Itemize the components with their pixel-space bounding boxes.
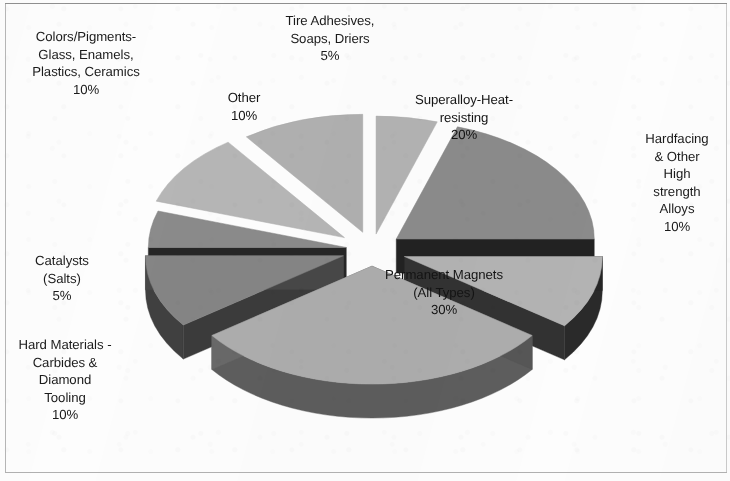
label-permanent-magnets: Permanent Magnets (All Types) 30% xyxy=(359,266,529,319)
label-hard-materials: Hard Materials - Carbides & Diamond Tool… xyxy=(0,336,130,424)
label-hardfacing: Hardfacing & Other High strength Alloys … xyxy=(629,130,725,236)
label-catalysts: Catalysts (Salts) 5% xyxy=(3,252,121,305)
label-tire-adhesives: Tire Adhesives, Soaps, Driers 5% xyxy=(252,12,408,65)
label-colors-pigments: Colors/Pigments- Glass, Enamels, Plastic… xyxy=(6,28,166,98)
label-superalloy: Superalloy-Heat- resisting 20% xyxy=(390,91,538,144)
pie-slice[interactable] xyxy=(396,127,594,273)
figure-canvas: Colors/Pigments- Glass, Enamels, Plastic… xyxy=(0,0,730,481)
label-other: Other 10% xyxy=(196,89,292,124)
